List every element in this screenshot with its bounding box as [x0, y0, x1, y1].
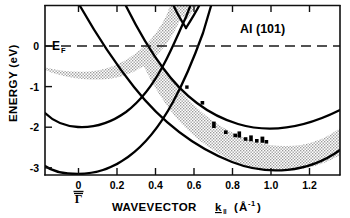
data-point [244, 137, 248, 141]
x-axis-title-exponent: -1 [248, 199, 255, 208]
fermi-level-label: E F [52, 39, 66, 55]
fermi-label-E: E [52, 39, 60, 53]
x-tick-label: 0.4 [148, 179, 163, 191]
plot-title: Al (101) [240, 22, 285, 36]
x-axis-title-angstrom: Å [239, 201, 248, 213]
x-tick-labels: 0 0.2 0.4 0.6 0.8 1.0 1.2 [76, 179, 317, 191]
x-axis-title-k: k [215, 201, 222, 213]
x-axis-title-paren-close: ) [257, 201, 261, 213]
y-tick-label: -1 [30, 81, 39, 93]
y-tick-labels: 0 -1 -2 -3 [30, 40, 40, 174]
gamma-label: Γ [75, 192, 83, 206]
data-point [249, 135, 253, 141]
x-tick-label: 0.6 [187, 179, 202, 191]
data-point [201, 101, 205, 105]
y-axis-ticks [45, 46, 52, 168]
y-tick-label: -3 [30, 162, 39, 174]
band-curve-gamma-lower [45, 6, 211, 174]
data-point [265, 140, 269, 144]
shaded-region-surface-band [141, 51, 340, 171]
data-point [224, 130, 228, 134]
y-tick-label: 0 [33, 40, 39, 52]
gamma-bar-symbol: Γ [74, 192, 83, 206]
data-point [233, 134, 237, 138]
band-structure-figure: 0 -1 -2 -3 0 0.2 0.4 0.6 0.8 1.0 1.2 Γ E… [0, 0, 350, 218]
x-axis-title-paren-open: ( [234, 201, 238, 213]
x-tick-label: 0.2 [110, 179, 125, 191]
x-tick-label: 0 [76, 179, 82, 191]
data-point [255, 139, 259, 143]
x-axis-ticks-top [79, 6, 310, 13]
shaded-band-regions [45, 3, 340, 171]
data-point [238, 131, 242, 137]
x-axis-title-k-subscript: ‖ [223, 207, 227, 216]
data-point [185, 85, 188, 88]
data-point [212, 122, 216, 128]
data-point [261, 137, 265, 143]
x-tick-label: 1.0 [264, 179, 279, 191]
shaded-region-gamma-gap [45, 3, 186, 80]
x-axis-title-main: WAVEVECTOR [112, 201, 197, 213]
y-tick-label: -2 [30, 121, 39, 133]
y-axis-title: ENERGY (eV) [7, 44, 19, 122]
plot-svg: 0 -1 -2 -3 0 0.2 0.4 0.6 0.8 1.0 1.2 Γ E… [0, 0, 350, 218]
x-tick-label: 1.2 [302, 179, 317, 191]
fermi-label-F-subscript: F [61, 46, 66, 55]
x-axis-title: WAVEVECTOR k ‖ ( Å -1 ) [112, 199, 261, 216]
x-tick-label: 0.8 [225, 179, 240, 191]
